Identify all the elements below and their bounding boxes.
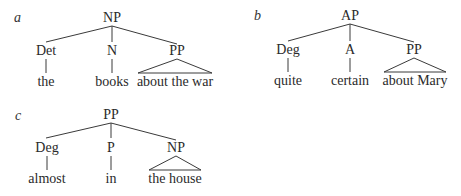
panel-label-c: c — [15, 108, 22, 123]
tree-a: a NP Det N PP the books about the war — [14, 10, 213, 89]
category-node: Det — [36, 43, 56, 58]
category-node: N — [107, 43, 117, 58]
category-node: PP — [169, 43, 185, 58]
leaf-word: books — [95, 74, 128, 89]
branch-line — [111, 123, 176, 140]
tree-c: c PP Deg P NP almost in the house — [15, 107, 202, 186]
root-node: AP — [341, 8, 359, 23]
triangle-abbreviation — [138, 59, 212, 73]
leaf-word: quite — [274, 73, 302, 88]
branch-line — [350, 24, 414, 42]
leaf-phrase: about the war — [137, 74, 214, 89]
branch-line — [46, 26, 112, 42]
leaf-word: almost — [28, 171, 65, 186]
tree-b: b AP Deg A PP quite certain about Mary — [254, 8, 447, 88]
panel-label-a: a — [14, 10, 21, 25]
root-node: NP — [103, 10, 121, 25]
category-node: Deg — [35, 140, 58, 155]
branch-line — [46, 123, 111, 138]
leaf-word: certain — [331, 73, 369, 88]
panel-label-b: b — [254, 8, 261, 23]
category-node: P — [107, 140, 115, 155]
leaf-word: the — [37, 74, 54, 89]
branch-line — [112, 26, 177, 44]
leaf-phrase: about Mary — [383, 73, 448, 88]
syntax-trees-figure: a NP Det N PP the books about the war b … — [0, 0, 461, 196]
category-node: A — [345, 42, 356, 57]
triangle-abbreviation — [149, 156, 201, 170]
branch-line — [288, 24, 350, 41]
category-node: NP — [167, 140, 185, 155]
category-node: PP — [406, 42, 422, 57]
leaf-phrase: the house — [148, 171, 201, 186]
triangle-abbreviation — [384, 58, 446, 72]
root-node: PP — [103, 107, 119, 122]
category-node: Deg — [276, 42, 299, 57]
leaf-word: in — [106, 171, 117, 186]
